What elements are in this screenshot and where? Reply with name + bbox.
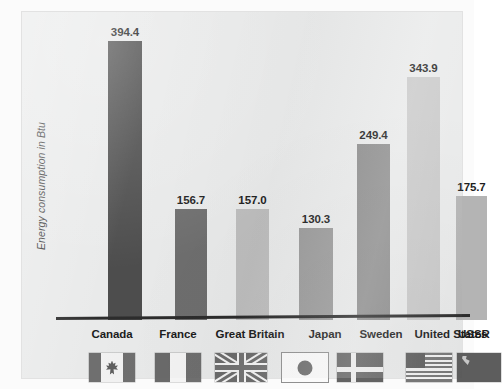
- bar-slot-france[interactable]: 156.7: [175, 24, 207, 320]
- category-label-great-britain: Great Britain: [200, 328, 300, 340]
- flag-france-icon: [155, 353, 201, 382]
- flag-cell-canada: [89, 353, 135, 382]
- flag-united-states-icon: [406, 353, 452, 382]
- bar-value-ussr: 175.7: [457, 181, 485, 193]
- flag-cell-japan: [282, 353, 328, 382]
- bar-value-canada: 394.4: [111, 26, 139, 38]
- hammer-and-sickle-icon: [462, 356, 470, 365]
- bar-sweden[interactable]: [357, 144, 390, 320]
- france-band-1: [155, 353, 170, 382]
- bar-slot-ussr[interactable]: 175.7: [456, 24, 487, 320]
- france-band-3: [186, 353, 201, 382]
- category-label-ussr: USSR: [448, 328, 500, 340]
- bar-slot-great-britain[interactable]: 157.0: [236, 24, 269, 320]
- bar-slot-canada[interactable]: 394.4: [108, 24, 142, 320]
- rising-sun-disc-icon: [298, 360, 313, 375]
- bar-slot-united-states[interactable]: 343.9: [407, 24, 440, 320]
- plot-area: 394.4 156.7 157.0 130.3 249.4 343.9: [56, 24, 474, 320]
- flag-cell-ussr: [456, 353, 502, 382]
- flag-legend-row: [44, 353, 484, 387]
- bar-slot-japan[interactable]: 130.3: [299, 24, 333, 320]
- flag-canada-icon: [89, 353, 135, 382]
- bar-france[interactable]: [175, 209, 207, 320]
- bar-japan[interactable]: [299, 228, 333, 320]
- y-axis-label: Energy consumption in Btu: [35, 110, 47, 250]
- bar-ussr[interactable]: [456, 196, 487, 320]
- canada-right-band: [123, 353, 135, 382]
- bar-slot-sweden[interactable]: 249.4: [357, 24, 390, 320]
- category-axis-labels: Canada France Great Britain Japan Sweden…: [44, 328, 484, 344]
- flag-ussr-icon: [457, 353, 501, 382]
- sweden-cross-vertical: [351, 353, 356, 382]
- category-label-canada: Canada: [76, 328, 148, 340]
- france-band-2: [170, 353, 185, 382]
- bar-united-states[interactable]: [407, 77, 440, 320]
- flag-sweden-icon: [337, 353, 383, 382]
- bar-value-sweden: 249.4: [359, 129, 387, 141]
- bar-value-japan: 130.3: [302, 213, 330, 225]
- bar-value-great-britain: 157.0: [238, 194, 266, 206]
- bar-great-britain[interactable]: [236, 209, 269, 320]
- bar-value-france: 156.7: [177, 194, 205, 206]
- sweden-cross-horizontal: [337, 367, 383, 372]
- flag-cell-sweden: [337, 353, 383, 382]
- chart-panel: Energy consumption in Btu 394.4 156.7 15…: [22, 12, 462, 378]
- flag-cell-france: [155, 353, 201, 382]
- flag-cell-united-states: [406, 353, 452, 382]
- us-canton: [406, 353, 425, 368]
- union-jack-vertical-red: [239, 353, 244, 382]
- bar-value-united-states: 343.9: [409, 62, 437, 74]
- canada-left-band: [89, 353, 101, 382]
- flag-japan-icon: [282, 353, 328, 382]
- flag-cell-great-britain: [214, 353, 268, 382]
- flag-great-britain-icon: [215, 353, 267, 382]
- bar-canada[interactable]: [108, 41, 142, 320]
